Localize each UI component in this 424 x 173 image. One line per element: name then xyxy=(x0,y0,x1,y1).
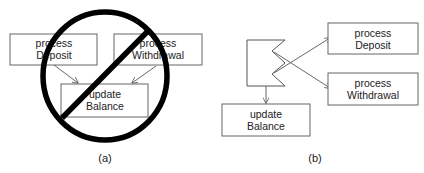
box-process-withdrawal-b: process Withdrawal xyxy=(328,73,418,105)
diagram-canvas: process Deposit process Withdrawal updat… xyxy=(0,0,424,173)
box-label-line2: Withdrawal xyxy=(347,89,399,101)
arrow-withdrawal-to-update xyxy=(132,66,156,83)
box-label-line1: update xyxy=(250,108,282,120)
box-update-balance-b: update Balance xyxy=(222,104,310,136)
box-label-line1: process xyxy=(355,77,392,89)
arrow-to-process-withdrawal xyxy=(274,52,330,88)
arrow-deposit-to-update xyxy=(54,65,78,83)
panel-a: process Deposit process Withdrawal updat… xyxy=(10,12,202,164)
prohibition-icon xyxy=(43,12,167,140)
panel-b: process Deposit process Withdrawal updat… xyxy=(222,23,418,164)
zigzag-dispatcher-shape xyxy=(247,40,285,86)
caption-b: (b) xyxy=(308,152,321,164)
box-label-line2: Balance xyxy=(86,100,124,112)
box-label-line1: process xyxy=(355,27,392,39)
box-label-line2: Deposit xyxy=(355,39,391,51)
box-process-deposit-b: process Deposit xyxy=(328,23,418,54)
caption-a: (a) xyxy=(98,152,111,164)
box-label-line2: Withdrawal xyxy=(132,49,184,61)
box-label-line2: Balance xyxy=(247,120,285,132)
arrow-to-process-deposit xyxy=(274,38,330,73)
box-label-line2: Deposit xyxy=(36,49,72,61)
box-label-line1: update xyxy=(89,88,121,100)
box-update-balance-a: update Balance xyxy=(61,84,148,117)
